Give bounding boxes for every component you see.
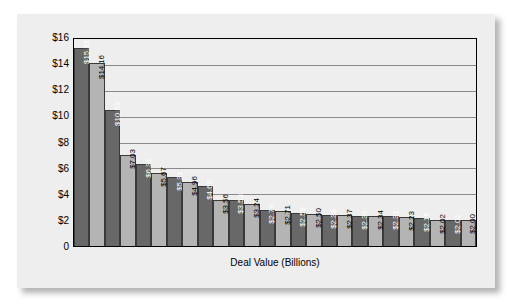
bar: $2.02 — [430, 220, 445, 246]
bar: $14.16 — [89, 63, 104, 246]
bar: $3.53 — [229, 200, 244, 246]
bar: $5.67 — [151, 173, 166, 246]
y-axis: 0$2$4$6$8$10$12$14$16 — [34, 38, 69, 247]
bar: $2.31 — [383, 216, 398, 246]
bar: $3.56 — [213, 200, 228, 246]
y-axis-tick: $2 — [34, 216, 69, 226]
bar-value-label: $14.16 — [97, 55, 106, 79]
y-axis-tick: $4 — [34, 190, 69, 200]
bar: $2.15 — [414, 218, 429, 246]
bar: $2.37 — [337, 215, 352, 246]
plot-area: $15.33$14.16$10.53$7.03$6.31$5.67$5.31$4… — [73, 38, 477, 247]
bar: $2.59 — [291, 213, 306, 247]
chart-screenshot: 0$2$4$6$8$10$12$14$16 $15.33$14.16$10.53… — [0, 0, 510, 307]
bar: $2.76 — [260, 210, 275, 246]
bar: $6.31 — [136, 164, 151, 246]
bar-series: $15.33$14.16$10.53$7.03$6.31$5.67$5.31$4… — [74, 39, 476, 246]
chart-panel: 0$2$4$6$8$10$12$14$16 $15.33$14.16$10.53… — [17, 14, 495, 288]
y-axis-tick: $10 — [34, 111, 69, 121]
bar: $2.00 — [461, 220, 476, 246]
x-axis-title: Deal Value (Billions) — [73, 257, 477, 268]
y-axis-tick: $6 — [34, 164, 69, 174]
y-axis-tick: $8 — [34, 138, 69, 148]
y-axis-tick: 0 — [34, 242, 69, 252]
bar: $2.50 — [306, 214, 321, 246]
bar: $10.53 — [105, 110, 120, 246]
bar: $2.01 — [445, 220, 460, 246]
bar-value-label: $2.00 — [468, 214, 477, 234]
bar-value-label: $15.33 — [82, 40, 91, 64]
bar: $5.31 — [167, 177, 182, 246]
bar: $2.23 — [399, 217, 414, 246]
y-axis-tick: $14 — [34, 59, 69, 69]
bar: $2.71 — [275, 211, 290, 246]
bar: $2.34 — [368, 216, 383, 246]
bar: $3.24 — [244, 204, 259, 246]
bar: $15.33 — [74, 48, 89, 246]
bar: $4.96 — [182, 182, 197, 246]
bar: $4.65 — [198, 186, 213, 246]
bar: $2.38 — [322, 215, 337, 246]
bar-value-label: $10.53 — [113, 102, 122, 126]
bar: $7.03 — [120, 155, 135, 246]
y-axis-tick: $12 — [34, 85, 69, 95]
bar-value-label: $4.65 — [205, 180, 214, 200]
y-axis-tick: $16 — [34, 33, 69, 43]
bar: $2.35 — [352, 216, 367, 246]
